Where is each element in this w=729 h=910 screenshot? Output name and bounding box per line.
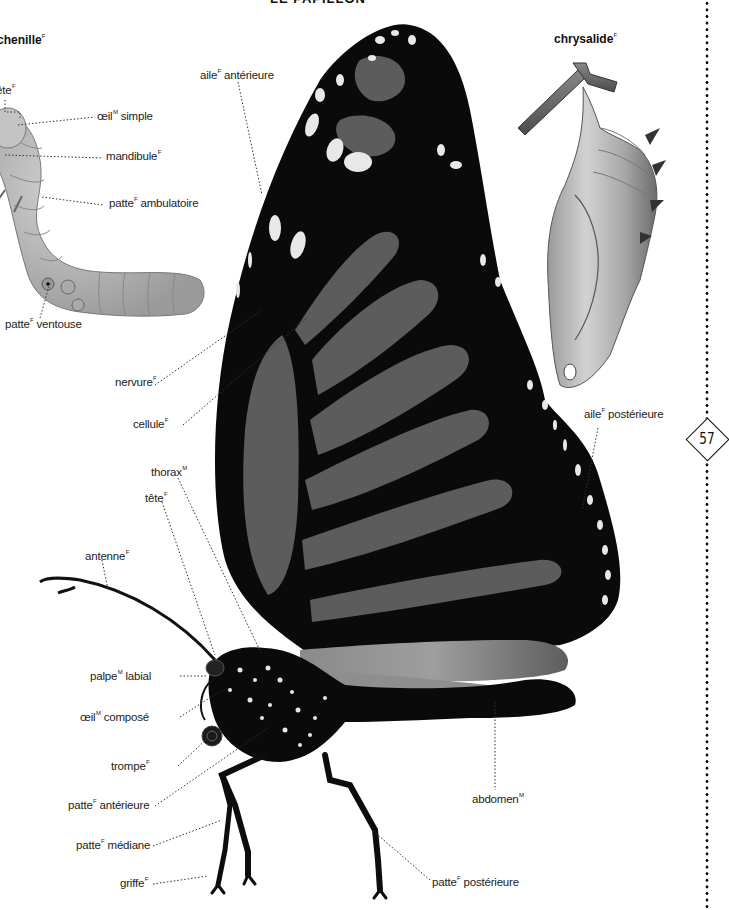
label-caterpillar-head: têteF	[0, 84, 15, 96]
label-walking-leg: patteF ambulatoire	[109, 197, 198, 209]
caterpillar-title: chenilleF	[0, 33, 45, 47]
label-compound-eye: œilM composé	[80, 711, 149, 723]
label-proboscis: trompeF	[111, 760, 150, 772]
chrysalis-title: chrysalideF	[554, 32, 617, 46]
label-middle-leg: patteF médiane	[76, 839, 150, 851]
label-simple-eye: œilM simple	[97, 110, 153, 122]
label-labial-palp: palpeM labial	[90, 670, 151, 682]
label-foreleg: patteF antérieure	[68, 799, 149, 811]
caterpillar-drawing	[0, 108, 204, 316]
label-cell: celluleF	[133, 418, 168, 430]
page-number: 57	[691, 429, 724, 448]
label-head: têteF	[145, 492, 167, 504]
label-abdomen: abdomenM	[472, 793, 524, 805]
label-vein: nervureF	[115, 376, 157, 388]
label-forewing: aileF antérieure	[200, 69, 274, 81]
label-hindwing: aileF postérieure	[584, 408, 663, 420]
label-hind-leg: patteF postérieure	[432, 876, 519, 888]
label-proleg: patteF ventouse	[5, 318, 82, 330]
page-number-badge: 57	[685, 417, 729, 461]
label-mandible: mandibuleF	[106, 150, 161, 162]
label-antenna: antenneF	[85, 550, 129, 562]
label-claw: griffeF	[120, 877, 148, 889]
label-thorax: thoraxM	[151, 466, 187, 478]
chrysalis-drawing	[518, 63, 666, 387]
